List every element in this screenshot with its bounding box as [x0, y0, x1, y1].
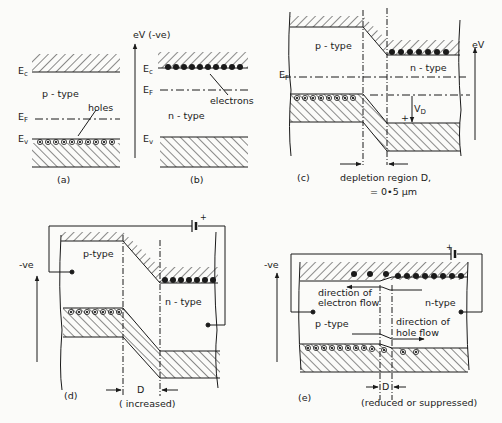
panel-e-n-label: n-type	[425, 298, 456, 308]
panel-d-caption: (d)	[64, 391, 77, 401]
panel-e-p-label: p -type	[315, 319, 349, 329]
panel-e-hole-flow-label-2: hole flow	[396, 328, 439, 338]
panel-d-d-label: D	[137, 385, 144, 395]
panel-e-d-label: D	[382, 382, 389, 392]
panel-c-ef-label: EF	[279, 70, 289, 82]
panel-c-caption: (c)	[297, 173, 310, 183]
panel-d-battery-plus: +	[200, 214, 207, 222]
panel-c-p-label: p - type	[315, 41, 352, 51]
panel-e-caption: (e)	[298, 393, 311, 403]
panel-b-caption: (b)	[190, 175, 203, 185]
panel-e-battery-plus: +	[446, 244, 453, 252]
panel-e-hole-flow-label-1: direction of	[396, 317, 450, 327]
panel-e-axis-label: -ve	[264, 260, 279, 270]
pn-junction-figure: Ec p - type holes EF Ev (a) eV (-ve) Ec …	[0, 0, 502, 423]
panel-b-type-label: n - type	[168, 111, 205, 121]
panel-c-depletion-value: = 0•5 μm	[370, 187, 417, 197]
panel-c-vd-label: VD	[414, 104, 426, 116]
panel-d-d-note: ( increased)	[119, 399, 176, 409]
panel-d-p-label: p-type	[83, 249, 114, 259]
panel-b-ec-label: Ec	[143, 64, 153, 76]
panel-b-ef-label: EF	[143, 85, 153, 97]
panel-e-electron-flow-label-2: electron flow	[318, 298, 379, 308]
panel-c-drawing	[283, 8, 475, 165]
panel-a-ec-label: Ec	[18, 66, 28, 78]
panel-b-ev-label: Ev	[143, 134, 153, 146]
panel-b-axis-label: eV (-ve)	[133, 30, 170, 40]
panel-a-holes-label: holes	[88, 103, 113, 113]
panel-c-depletion-label: depletion region D,	[340, 173, 431, 183]
panel-d-drawing	[37, 220, 225, 396]
panel-d-n-label: n - type	[165, 297, 202, 307]
panel-e-d-note: (reduced or suppressed)	[361, 398, 477, 408]
panel-a-ef-label: EF	[18, 112, 28, 124]
panel-c-plus: +	[401, 113, 409, 123]
panel-b-electrons-label: electrons	[210, 96, 254, 106]
panel-a-ev-label: Ev	[18, 134, 28, 146]
panel-c-n-label: n - type	[410, 63, 447, 73]
panel-d-axis-label: -ve	[19, 260, 34, 270]
panel-a-type-label: p - type	[42, 89, 79, 99]
panel-c-axis-label: eV	[472, 40, 484, 50]
panel-a-caption: (a)	[57, 175, 70, 185]
panel-e-drawing	[277, 248, 482, 400]
